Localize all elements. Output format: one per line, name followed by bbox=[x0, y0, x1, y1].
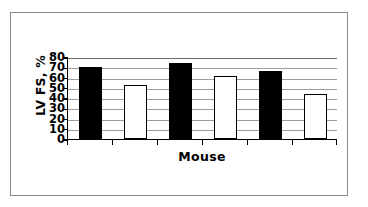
bar-5 bbox=[259, 71, 282, 139]
y-tickmark bbox=[64, 57, 68, 58]
y-tickmark bbox=[64, 119, 68, 120]
y-tickmark bbox=[64, 68, 68, 69]
bars-group bbox=[68, 58, 337, 139]
y-tick-label: 0 bbox=[43, 134, 65, 146]
bar-6 bbox=[304, 94, 327, 139]
x-tickmark bbox=[336, 140, 337, 145]
x-tickmark bbox=[67, 140, 68, 145]
plot-area bbox=[67, 58, 337, 140]
x-tickmark bbox=[112, 140, 113, 145]
x-tickmark bbox=[202, 140, 203, 145]
x-tickmark bbox=[247, 140, 248, 145]
x-axis-tickmarks bbox=[67, 140, 337, 146]
x-axis-title: Mouse bbox=[67, 149, 337, 164]
y-tickmark bbox=[64, 98, 68, 99]
y-axis-tick-labels: 80706050403020100 bbox=[41, 0, 65, 207]
x-tickmark bbox=[292, 140, 293, 145]
x-tickmark bbox=[157, 140, 158, 145]
chart-figure: LV FS, % 80706050403020100 Mouse bbox=[0, 0, 368, 207]
y-tickmark bbox=[64, 78, 68, 79]
bar-3 bbox=[169, 63, 192, 139]
bar-4 bbox=[214, 76, 237, 139]
bar-2 bbox=[124, 85, 147, 139]
y-tickmark bbox=[64, 88, 68, 89]
y-tickmark bbox=[64, 109, 68, 110]
bar-1 bbox=[79, 67, 102, 139]
y-tickmark bbox=[64, 129, 68, 130]
